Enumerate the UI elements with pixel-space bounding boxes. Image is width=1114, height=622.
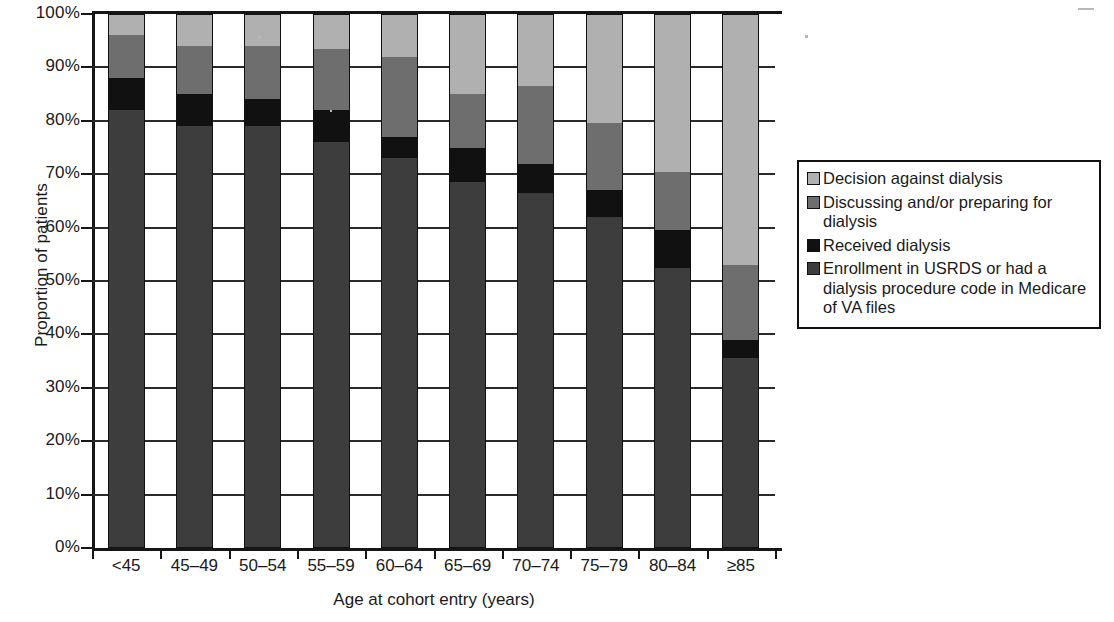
y-axis-tick-label: 20% [14, 433, 80, 447]
bar-7579 [586, 14, 623, 548]
bar-segment [722, 358, 759, 548]
bar-segment [586, 14, 623, 123]
y-axis-tick-label: 90% [14, 59, 80, 73]
x-axis-tick-label: 65–69 [434, 556, 502, 576]
bar-segment [313, 142, 350, 548]
bar-segment [449, 94, 486, 147]
bar-segment [449, 182, 486, 548]
x-axis-tick-label: 55–59 [297, 556, 365, 576]
x-axis-tick-mark [775, 548, 777, 559]
bar-segment [244, 46, 281, 99]
bar-segment [176, 46, 213, 94]
y-axis-tick-label: 30% [14, 380, 80, 394]
bar-segment [517, 86, 554, 163]
bar-segment [381, 57, 418, 137]
bar-segment [381, 158, 418, 548]
bar-segment [722, 340, 759, 359]
bar-segment [381, 14, 418, 57]
y-axis-tick-label: 10% [14, 487, 80, 501]
y-axis-tick-label: 70% [14, 166, 80, 180]
bar-segment [108, 110, 145, 548]
bar-segment [517, 193, 554, 548]
x-axis-tick-label: <45 [92, 556, 160, 576]
bar-segment [108, 78, 145, 110]
bar-45 [108, 14, 145, 548]
chart-legend: Decision against dialysisDiscussing and/… [797, 160, 1101, 329]
bar-segment [586, 123, 623, 190]
legend-swatch-icon [807, 172, 820, 185]
bar-segment [244, 99, 281, 126]
y-axis-tick-label: 100% [14, 6, 80, 20]
bar-segment [244, 126, 281, 548]
legend-item-label: Enrollment in USRDS or had a dialysis pr… [823, 259, 1093, 318]
x-axis-line [92, 548, 782, 551]
bar-85 [722, 14, 759, 548]
legend-swatch-icon [807, 196, 820, 209]
x-axis-tick-label: 70–74 [502, 556, 570, 576]
bar-segment [449, 14, 486, 94]
scan-speck [258, 36, 261, 39]
legend-item-label: Received dialysis [823, 236, 950, 256]
x-axis-title: Age at cohort entry (years) [0, 590, 868, 610]
bar-segment [381, 137, 418, 158]
scan-speck [805, 35, 808, 38]
bar-segment [176, 14, 213, 46]
bar-segment [313, 49, 350, 110]
bar-segment [517, 14, 554, 86]
bar-segment [313, 14, 350, 49]
y-axis-tick-mark [81, 13, 93, 15]
bar-segment [517, 164, 554, 193]
bar-segment [586, 190, 623, 217]
bar-segment [722, 265, 759, 340]
y-axis-tick-label: 40% [14, 326, 80, 340]
bar-segment [654, 230, 691, 267]
y-axis-tick-label: 80% [14, 113, 80, 127]
bar-5559 [313, 14, 350, 548]
bar-segment [586, 217, 623, 548]
bar-segment [654, 172, 691, 231]
bar-segment [654, 14, 691, 172]
bar-segment [108, 35, 145, 78]
scan-speck [330, 110, 332, 112]
x-axis-tick-label: 80–84 [638, 556, 706, 576]
bar-6064 [381, 14, 418, 548]
bar-segment [108, 14, 145, 35]
bar-segment [722, 14, 759, 265]
x-axis-tick-label: 50–54 [229, 556, 297, 576]
legend-item-enrollment-usrds: Enrollment in USRDS or had a dialysis pr… [807, 259, 1093, 318]
bar-5054 [244, 14, 281, 548]
bar-segment [313, 110, 350, 142]
plot-area [92, 14, 775, 548]
legend-item-received-dialysis: Received dialysis [807, 236, 1093, 256]
chart-figure: Proportion of patients 0%10%20%30%40%50%… [0, 0, 1114, 622]
bar-segment [176, 126, 213, 548]
legend-item-decision-against-dialysis: Decision against dialysis [807, 169, 1093, 189]
bar-segment [449, 148, 486, 183]
legend-item-discussing-preparing-dialysis: Discussing and/or preparing for dialysis [807, 193, 1093, 232]
bar-6569 [449, 14, 486, 548]
legend-item-label: Decision against dialysis [823, 169, 1003, 189]
y-axis-tick-label: 50% [14, 273, 80, 287]
legend-swatch-icon [807, 239, 820, 252]
bar-7074 [517, 14, 554, 548]
y-axis-tick-label: 0% [14, 540, 80, 554]
legend-swatch-icon [807, 262, 820, 275]
scan-speck [1078, 8, 1094, 10]
x-axis-tick-label: ≥85 [707, 556, 775, 576]
x-axis-tick-label: 60–64 [365, 556, 433, 576]
x-axis-tick-label: 45–49 [160, 556, 228, 576]
y-axis-tick-label: 60% [14, 220, 80, 234]
bar-segment [244, 14, 281, 46]
legend-item-label: Discussing and/or preparing for dialysis [823, 193, 1093, 232]
bar-4549 [176, 14, 213, 548]
x-axis-tick-label: 75–79 [570, 556, 638, 576]
bar-segment [654, 268, 691, 548]
y-axis-tick-labels: 0%10%20%30%40%50%60%70%80%90%100% [12, 0, 80, 622]
bar-8084 [654, 14, 691, 548]
bar-segment [176, 94, 213, 126]
